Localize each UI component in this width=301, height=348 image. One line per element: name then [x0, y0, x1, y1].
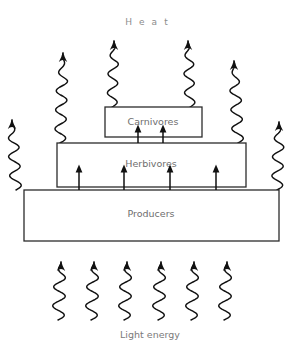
heat-label: Heat: [125, 17, 174, 27]
wave-shaft: [184, 41, 195, 107]
arrowhead-icon: [123, 261, 131, 271]
trophic-box-producers: Producers: [24, 190, 279, 241]
wave-shaft: [119, 262, 132, 320]
wave-shaft: [219, 262, 232, 320]
light-wave-light-wave-4: [153, 261, 166, 320]
arrowhead-icon: [275, 121, 283, 131]
wave-shaft: [153, 262, 166, 320]
light-wave-light-wave-5: [186, 261, 199, 320]
trophic-box-herbivores: Herbivores: [57, 143, 246, 187]
wave-shaft: [272, 122, 284, 190]
energy-pyramid-diagram: CarnivoresHerbivoresProducers Heat Light…: [0, 0, 301, 348]
light-energy-wave-arrows-group: [53, 261, 232, 320]
wave-shaft: [53, 262, 66, 320]
arrowhead-icon: [157, 261, 165, 271]
light-energy-label: Light energy: [120, 329, 180, 340]
heat-wave-heat-wave-2: [55, 52, 68, 143]
arrowhead-icon: [90, 261, 98, 271]
trophic-box-label-producers: Producers: [127, 208, 174, 219]
trophic-level-boxes-group: CarnivoresHerbivoresProducers: [24, 107, 279, 241]
trophic-box-label-carnivores: Carnivores: [128, 116, 179, 127]
arrowhead-icon: [59, 52, 67, 62]
wave-shaft: [55, 53, 68, 143]
wave-shaft: [107, 41, 118, 107]
heat-wave-heat-wave-5: [230, 60, 243, 143]
wave-shaft: [86, 262, 99, 320]
arrowhead-icon: [190, 261, 198, 271]
arrowhead-icon: [223, 261, 231, 271]
arrowhead-icon: [8, 119, 16, 129]
arrowhead-icon: [184, 40, 192, 50]
light-wave-light-wave-2: [86, 261, 99, 320]
diagram-canvas: CarnivoresHerbivoresProducers Heat Light…: [0, 0, 301, 348]
wave-shaft: [9, 120, 22, 190]
trophic-box-carnivores: Carnivores: [105, 107, 202, 137]
heat-wave-heat-wave-1: [8, 119, 21, 190]
light-wave-light-wave-6: [219, 261, 232, 320]
light-wave-light-wave-3: [119, 261, 132, 320]
light-wave-light-wave-1: [53, 261, 66, 320]
arrowhead-icon: [57, 261, 65, 271]
heat-wave-heat-wave-4: [184, 40, 195, 107]
heat-wave-heat-wave-6: [272, 121, 284, 190]
wave-shaft: [230, 61, 243, 143]
heat-wave-heat-wave-3: [107, 40, 118, 107]
wave-shaft: [186, 262, 199, 320]
